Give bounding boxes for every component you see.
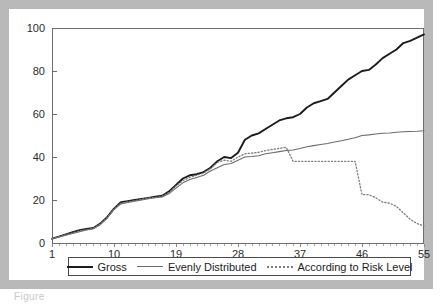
y-tick-label: 100 <box>11 23 45 34</box>
x-tick-minor-mark <box>59 244 60 246</box>
x-tick-minor-mark <box>348 244 349 246</box>
x-tick-minor-mark <box>328 244 329 246</box>
x-tick-minor-mark <box>286 244 287 246</box>
x-tick-minor-mark <box>252 244 253 246</box>
y-tick-label: 20 <box>11 195 45 206</box>
x-tick-minor-mark <box>210 244 211 246</box>
x-tick-minor-mark <box>217 244 218 246</box>
x-tick-minor-mark <box>266 244 267 246</box>
x-tick-minor-mark <box>376 244 377 246</box>
x-tick-minor-mark <box>135 244 136 246</box>
legend-swatch-gross-icon <box>67 264 93 270</box>
x-tick-minor-mark <box>341 244 342 246</box>
y-tick-label: 60 <box>11 109 45 120</box>
x-tick-minor-mark <box>155 244 156 246</box>
x-tick-minor-mark <box>73 244 74 246</box>
legend-item-evenly-distributed: Evenly Distributed <box>137 261 257 273</box>
y-tick-label: 80 <box>11 66 45 77</box>
legend-swatch-evenly-distributed-icon <box>137 264 163 270</box>
x-tick-minor-mark <box>86 244 87 246</box>
x-tick-minor-mark <box>390 244 391 246</box>
x-tick-minor-mark <box>396 244 397 246</box>
x-tick-minor-mark <box>231 244 232 246</box>
x-tick-minor-mark <box>383 244 384 246</box>
x-tick-label: 55 <box>409 249 439 260</box>
x-tick-minor-mark <box>321 244 322 246</box>
x-tick-minor-mark <box>369 244 370 246</box>
figure-area: 020406080100 1101928374655 Gross Evenly … <box>9 9 424 280</box>
x-tick-minor-mark <box>259 244 260 246</box>
legend-label-according-to-risk-level: According to Risk Level <box>298 261 413 273</box>
x-tick-minor-mark <box>293 244 294 246</box>
chart-curves <box>52 28 424 243</box>
x-tick-minor-mark <box>355 244 356 246</box>
x-tick-minor-mark <box>197 244 198 246</box>
x-tick-mark <box>300 244 301 247</box>
y-tick-mark <box>53 243 57 244</box>
x-tick-minor-mark <box>204 244 205 246</box>
x-tick-minor-mark <box>307 244 308 246</box>
x-tick-minor-mark <box>403 244 404 246</box>
x-tick-minor-mark <box>245 244 246 246</box>
x-tick-label: 1 <box>37 249 67 260</box>
legend-label-gross: Gross <box>98 261 127 273</box>
x-tick-minor-mark <box>162 244 163 246</box>
x-tick-minor-mark <box>410 244 411 246</box>
x-tick-minor-mark <box>279 244 280 246</box>
x-tick-minor-mark <box>121 244 122 246</box>
x-tick-minor-mark <box>80 244 81 246</box>
legend-item-gross: Gross <box>67 261 127 273</box>
x-tick-minor-mark <box>417 244 418 246</box>
series-line <box>52 131 424 239</box>
figure-caption: Figure <box>14 291 45 302</box>
x-tick-minor-mark <box>334 244 335 246</box>
x-tick-minor-mark <box>128 244 129 246</box>
x-tick-minor-mark <box>224 244 225 246</box>
x-tick-minor-mark <box>183 244 184 246</box>
legend-item-according-to-risk-level: According to Risk Level <box>267 261 413 273</box>
x-tick-minor-mark <box>107 244 108 246</box>
chart-legend: Gross Evenly Distributed According to Ri… <box>68 257 411 276</box>
x-tick-mark <box>238 244 239 247</box>
x-tick-mark <box>424 244 425 247</box>
x-tick-mark <box>114 244 115 247</box>
x-tick-minor-mark <box>100 244 101 246</box>
x-tick-minor-mark <box>66 244 67 246</box>
x-tick-minor-mark <box>169 244 170 246</box>
x-tick-minor-mark <box>314 244 315 246</box>
x-tick-mark <box>52 244 53 247</box>
x-tick-minor-mark <box>190 244 191 246</box>
legend-swatch-risk-level-icon <box>267 264 293 270</box>
x-tick-minor-mark <box>148 244 149 246</box>
y-tick-label: 40 <box>11 152 45 163</box>
x-tick-mark <box>176 244 177 247</box>
x-tick-mark <box>362 244 363 247</box>
series-line <box>52 34 424 238</box>
x-tick-minor-mark <box>142 244 143 246</box>
y-tick-label: 0 <box>11 238 45 249</box>
legend-label-evenly-distributed: Evenly Distributed <box>168 261 257 273</box>
x-tick-minor-mark <box>93 244 94 246</box>
x-tick-minor-mark <box>272 244 273 246</box>
series-line <box>52 147 424 238</box>
figure-page: 020406080100 1101928374655 Gross Evenly … <box>0 0 447 307</box>
